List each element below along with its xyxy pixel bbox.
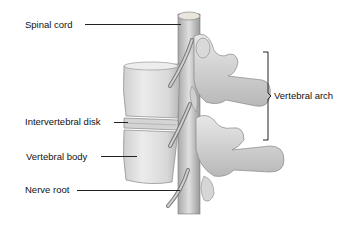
leader-vertebral-body: [101, 156, 137, 157]
label-vertebral-arch: Vertebral arch: [274, 91, 333, 101]
label-vertebral-body: Vertebral body: [26, 152, 87, 162]
leader-nerve-root: [77, 190, 180, 191]
label-spinal-cord: Spinal cord: [25, 20, 73, 30]
leader-intervertebral-disk: [114, 122, 128, 123]
upper-vertebral-arch: [190, 34, 270, 112]
label-nerve-root: Nerve root: [25, 185, 69, 195]
upper-vertebral-body: [123, 62, 180, 118]
label-intervertebral-disk: Intervertebral disk: [25, 117, 101, 127]
intervertebral-disk: [124, 118, 178, 130]
lower-vertebral-arch: [196, 115, 284, 201]
leader-spinal-cord: [85, 24, 181, 25]
